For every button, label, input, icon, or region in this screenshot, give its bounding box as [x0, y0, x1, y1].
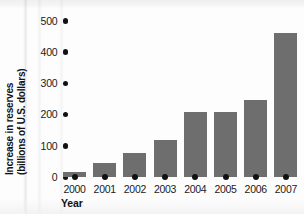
y-axis-tick-label: 0 — [52, 172, 58, 183]
y-axis-tick: 0 — [20, 171, 68, 183]
y-axis-tick-label: 500 — [41, 16, 58, 27]
x-axis-tick-label: 2007 — [270, 184, 302, 195]
x-axis-tick-dot-icon — [192, 174, 198, 180]
x-axis-tick-dot-icon — [253, 174, 259, 180]
bar — [184, 112, 207, 177]
x-axis-tick-label: 2005 — [210, 184, 242, 195]
y-axis-tick-dot-icon — [63, 112, 69, 118]
x-axis-tick-label: 2003 — [149, 184, 181, 195]
x-axis-tick-dot-icon — [72, 174, 78, 180]
x-axis-tick-dot-icon — [283, 174, 289, 180]
y-axis-tick: 300 — [20, 77, 68, 89]
y-axis-tick: 500 — [20, 15, 68, 27]
x-axis-tick-dot-icon — [223, 174, 229, 180]
y-axis-tick-label: 200 — [41, 109, 58, 120]
y-axis-tick-label: 400 — [41, 47, 58, 58]
x-axis-tick-label: 2000 — [59, 184, 91, 195]
x-axis-tick-dot-icon — [132, 174, 138, 180]
y-axis-tick-dot-icon — [63, 81, 69, 87]
x-axis-tick-dot-icon — [102, 174, 108, 180]
bar — [274, 33, 297, 177]
y-axis-tick-dot-icon — [63, 49, 69, 55]
x-axis-tick-label: 2001 — [89, 184, 121, 195]
x-axis-tick-dot-icon — [162, 174, 168, 180]
y-axis-title-line1: Increase in reserves — [4, 83, 15, 175]
plot-area: Increase in reserves (billions of U.S. d… — [0, 0, 304, 214]
x-axis-title: Year — [61, 197, 83, 209]
x-axis-tick-label: 2004 — [179, 184, 211, 195]
y-axis-tick: 100 — [20, 140, 68, 152]
bar — [244, 100, 267, 177]
x-axis-tick-label: 2006 — [240, 184, 272, 195]
x-axis-tick-label: 2002 — [119, 184, 151, 195]
y-axis-tick: 200 — [20, 109, 68, 121]
y-axis-tick-label: 300 — [41, 78, 58, 89]
y-axis-tick-dot-icon — [63, 143, 69, 149]
chart-figure: Increase in reserves (billions of U.S. d… — [0, 0, 304, 214]
bar — [154, 140, 177, 177]
y-axis-tick: 400 — [20, 46, 68, 58]
bar — [214, 112, 237, 177]
y-axis-tick-label: 100 — [41, 141, 58, 152]
y-axis-tick-dot-icon — [63, 18, 69, 24]
